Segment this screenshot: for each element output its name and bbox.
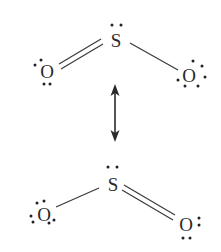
bottom-right-double-bond xyxy=(122,185,175,220)
top-sulfur-lone-pair xyxy=(111,24,123,27)
bottom-structure: S O O xyxy=(30,166,201,240)
top-structure: S O O xyxy=(34,24,207,88)
resonance-arrow-icon xyxy=(111,84,120,142)
bottom-sulfur-atom: S xyxy=(108,174,119,195)
so2-resonance-diagram: S O O xyxy=(0,0,221,252)
top-sulfur-atom: S xyxy=(111,30,122,51)
bottom-sulfur-lone-pair xyxy=(107,166,119,169)
bottom-right-oxygen-atom: O xyxy=(179,214,193,235)
top-right-oxygen-atom: O xyxy=(182,65,196,86)
top-left-oxygen-atom: O xyxy=(40,61,54,82)
bottom-left-single-bond xyxy=(56,188,99,207)
top-right-single-bond xyxy=(130,43,178,70)
top-left-double-bond xyxy=(59,39,103,69)
